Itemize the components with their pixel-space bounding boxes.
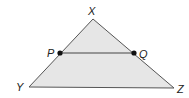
- label-z: Z: [176, 83, 185, 95]
- label-p: P: [47, 47, 55, 59]
- label-x: X: [87, 5, 96, 17]
- triangle-diagram: X Y Z P Q: [0, 0, 189, 98]
- point-q: [131, 50, 136, 55]
- point-p: [57, 50, 62, 55]
- label-y: Y: [16, 81, 24, 93]
- label-q: Q: [139, 48, 148, 60]
